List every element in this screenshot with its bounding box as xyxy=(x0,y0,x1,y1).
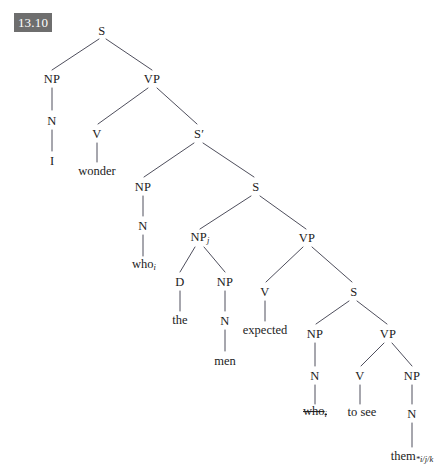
prime-mark: ′ xyxy=(201,127,204,141)
word-them: them*i/j/k xyxy=(391,450,433,464)
word-to-see: to see xyxy=(348,406,377,419)
node-v-to-see: V xyxy=(355,370,364,383)
node-np-men: NPj xyxy=(191,231,210,245)
node-np-subject: NP xyxy=(44,73,61,86)
word-who: whoi xyxy=(132,258,156,272)
word-them-subscript: *i/j/k xyxy=(416,454,433,464)
node-np-trace: NP xyxy=(307,328,324,341)
node-n-them: N xyxy=(407,408,416,421)
node-np-them: NP xyxy=(404,370,421,383)
word-men: men xyxy=(214,355,236,368)
node-s-embedded: S xyxy=(252,181,259,194)
word-who-trace: whoi xyxy=(303,405,327,419)
node-vp-to-see: VP xyxy=(380,328,397,341)
word-who-trace-subscript: i xyxy=(325,409,327,419)
node-vp-expected: VP xyxy=(299,232,316,245)
node-v-expected: V xyxy=(260,286,269,299)
node-np-men-subscript: j xyxy=(207,235,209,245)
word-expected: expected xyxy=(243,324,287,337)
word-wonder: wonder xyxy=(78,165,116,178)
node-np-men-label: NP xyxy=(191,230,208,244)
node-np-who: NP xyxy=(135,181,152,194)
word-who-text: who xyxy=(132,257,154,271)
node-s-root: S xyxy=(98,25,105,38)
node-d-the: D xyxy=(175,276,184,289)
node-n-men: N xyxy=(220,315,229,328)
node-s-infinitive: S xyxy=(350,286,357,299)
word-them-text: them xyxy=(391,449,416,463)
word-who-trace-text: who xyxy=(303,404,325,418)
word-i: I xyxy=(50,155,54,168)
node-n-who: N xyxy=(138,220,147,233)
word-who-subscript: i xyxy=(154,262,156,272)
node-v-wonder: V xyxy=(92,128,101,141)
syntax-tree-figure: 13.10 xyxy=(0,0,444,474)
node-sbar: S′ xyxy=(194,128,204,141)
tree-branches xyxy=(0,0,444,474)
node-vp-main: VP xyxy=(144,73,161,86)
node-np-men-inner: NP xyxy=(217,276,234,289)
node-n-trace: N xyxy=(310,370,319,383)
word-the: the xyxy=(172,314,187,327)
node-n-subject: N xyxy=(47,115,56,128)
